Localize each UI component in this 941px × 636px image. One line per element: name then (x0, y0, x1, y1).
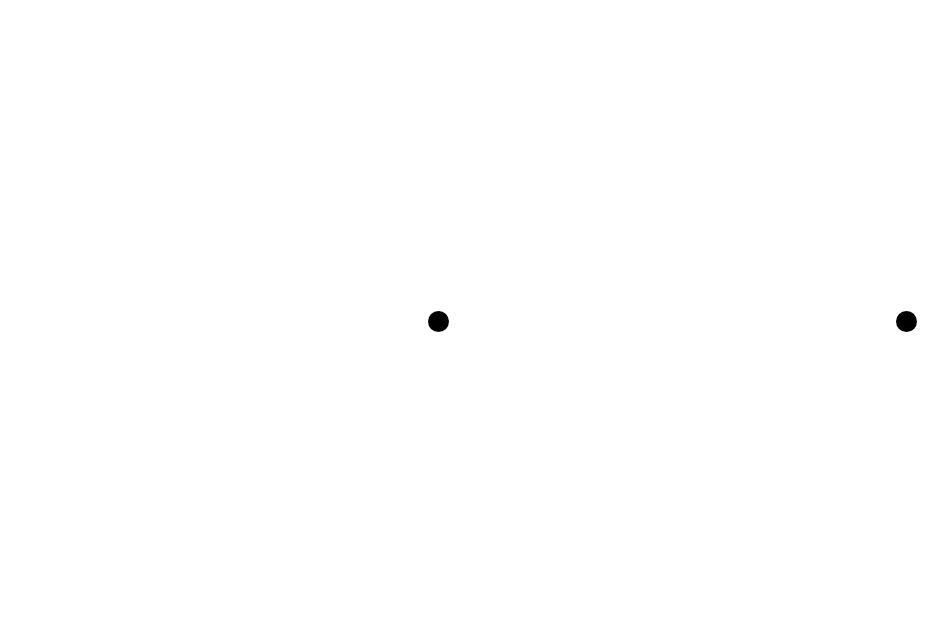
blank-canvas (0, 0, 941, 636)
left-dot (428, 311, 449, 332)
right-dot (896, 311, 917, 332)
